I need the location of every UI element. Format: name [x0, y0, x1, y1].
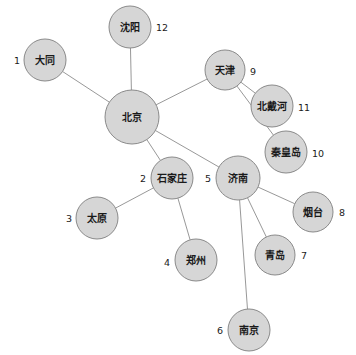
node-index-zhengzhou: 4	[164, 257, 170, 268]
edge-beijing-to-datong	[63, 72, 110, 103]
node-index-shenyang: 12	[156, 22, 168, 33]
node-nanjing[interactable]: 南京6	[217, 309, 270, 351]
node-index-tianjin: 9	[250, 66, 256, 77]
node-shijiazhuang[interactable]: 石家庄2	[140, 157, 193, 199]
edge-jinan-to-qingdao	[248, 198, 267, 237]
node-index-datong: 1	[14, 55, 20, 66]
node-beijing[interactable]: 北京	[105, 90, 159, 144]
node-label-shenyang: 沈阳	[120, 21, 140, 33]
node-tianjin[interactable]: 天津9	[205, 50, 256, 90]
edge-beijing-to-shenyang	[130, 48, 131, 90]
node-shenyang[interactable]: 沈阳12	[109, 6, 168, 48]
node-label-beidaihe: 北戴河	[257, 100, 288, 112]
node-qinhuangdao[interactable]: 秦皇岛10	[265, 131, 324, 173]
network-diagram: 大同1石家庄2太原3郑州4济南5南京6青岛7烟台8天津9秦皇岛10北戴河11沈阳…	[0, 0, 356, 355]
node-qingdao[interactable]: 青岛7	[255, 235, 307, 275]
node-label-qinhuangdao: 秦皇岛	[270, 146, 302, 158]
node-taiyuan[interactable]: 太原3	[66, 197, 118, 239]
node-index-jinan: 5	[205, 173, 211, 184]
node-zhengzhou[interactable]: 郑州4	[164, 239, 217, 281]
node-label-qingdao: 青岛	[265, 249, 285, 261]
edge-shijiazhuang-to-taiyuan	[116, 188, 154, 208]
node-label-jinan: 济南	[228, 172, 248, 184]
edge-jinan-to-nanjing	[240, 200, 248, 309]
edge-beijing-to-shijiazhuang	[147, 140, 161, 161]
edge-tianjin-to-beidaihe	[241, 82, 255, 93]
node-index-qinhuangdao: 10	[312, 148, 324, 159]
node-label-beijing: 北京	[122, 111, 142, 123]
node-jinan[interactable]: 济南5	[205, 156, 260, 200]
node-label-zhengzhou: 郑州	[186, 254, 206, 266]
node-datong[interactable]: 大同1	[14, 39, 66, 81]
node-index-taiyuan: 3	[66, 213, 72, 224]
node-label-tianjin: 天津	[215, 64, 235, 76]
edge-beijing-to-tianjin	[156, 79, 207, 105]
node-index-shijiazhuang: 2	[140, 173, 146, 184]
node-yantai[interactable]: 烟台8	[293, 192, 345, 232]
edge-shijiazhuang-to-zhengzhou	[178, 198, 190, 240]
node-index-beidaihe: 11	[298, 102, 310, 113]
network-canvas: 大同1石家庄2太原3郑州4济南5南京6青岛7烟台8天津9秦皇岛10北戴河11沈阳…	[0, 0, 356, 355]
node-label-yantai: 烟台	[303, 206, 323, 218]
edge-jinan-to-yantai	[258, 187, 295, 204]
node-beidaihe[interactable]: 北戴河11	[251, 85, 310, 127]
node-label-taiyuan: 太原	[86, 212, 107, 224]
node-index-qingdao: 7	[301, 250, 307, 261]
node-label-datong: 大同	[35, 54, 55, 66]
nodes-layer: 大同1石家庄2太原3郑州4济南5南京6青岛7烟台8天津9秦皇岛10北戴河11沈阳…	[14, 6, 345, 351]
node-label-nanjing: 南京	[239, 324, 259, 336]
node-index-nanjing: 6	[217, 325, 223, 336]
node-label-shijiazhuang: 石家庄	[156, 172, 188, 184]
node-index-yantai: 8	[339, 207, 345, 218]
